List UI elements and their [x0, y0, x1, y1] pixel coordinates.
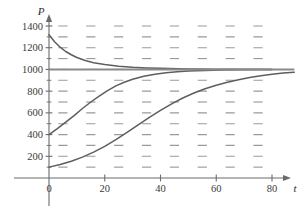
direction-field-figure: 200400600800100012001400020406080Pt [0, 0, 301, 213]
t-axis-tick-label: 80 [267, 183, 278, 194]
t-axis-tick-label: 40 [155, 183, 166, 194]
solution-curves [49, 35, 294, 167]
p-axis-tick-label: 800 [27, 86, 43, 97]
p-axis-tick-label: 200 [27, 151, 43, 162]
p-axis-tick-label: 1000 [22, 64, 43, 75]
t-axis-name: t [293, 182, 297, 194]
p-axis-tick-label: 1200 [22, 42, 43, 53]
p-axis-tick-label: 400 [27, 129, 43, 140]
t-axis-arrow-icon [283, 175, 291, 181]
axis-labels: 200400600800100012001400020406080Pt [22, 5, 297, 194]
p-axis-tick-label: 600 [27, 107, 43, 118]
t-axis-tick-label: 60 [211, 183, 222, 194]
slope-field-plot: 200400600800100012001400020406080Pt [0, 0, 301, 213]
t-axis-tick-label: 0 [46, 183, 51, 194]
p-axis-name: P [37, 5, 45, 17]
solution-from-100 [49, 72, 294, 167]
t-axis-tick-label: 20 [100, 183, 111, 194]
direction-field-marks [58, 26, 262, 167]
p-axis-tick-label: 1400 [22, 21, 43, 32]
p-axis-arrow-icon [46, 14, 52, 22]
solution-from-1320 [49, 35, 272, 70]
